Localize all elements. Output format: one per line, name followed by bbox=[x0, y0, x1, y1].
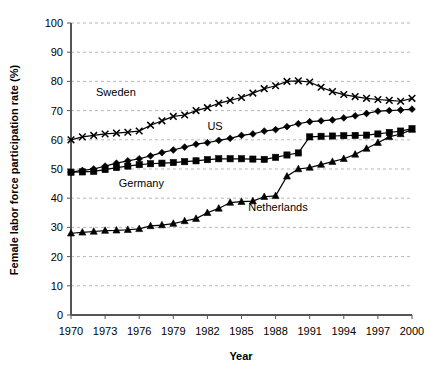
data-point-square bbox=[284, 152, 290, 158]
data-point-square bbox=[227, 156, 233, 162]
y-tick-label: 100 bbox=[45, 17, 63, 29]
line-chart-svg: 0102030405060708090100 19701973197619791… bbox=[0, 0, 440, 374]
data-point-square bbox=[375, 131, 381, 137]
chart-figure: 0102030405060708090100 19701973197619791… bbox=[0, 0, 440, 374]
data-point-square bbox=[102, 166, 108, 172]
x-tick-label: 1982 bbox=[195, 325, 219, 337]
y-tick-label: 10 bbox=[51, 280, 63, 292]
data-point-square bbox=[125, 163, 131, 169]
x-tick-label: 1979 bbox=[161, 325, 185, 337]
data-point-square bbox=[170, 159, 176, 165]
y-tick-label: 90 bbox=[51, 46, 63, 58]
data-point-square bbox=[238, 156, 244, 162]
y-tick-label: 70 bbox=[51, 105, 63, 117]
data-point-square bbox=[147, 161, 153, 167]
data-point-square bbox=[261, 156, 267, 162]
data-point-square bbox=[363, 132, 369, 138]
data-point-square bbox=[91, 168, 97, 174]
series-label-us: US bbox=[207, 120, 222, 132]
x-tick-label: 2000 bbox=[400, 325, 424, 337]
data-point-square bbox=[216, 156, 222, 162]
data-point-square bbox=[273, 154, 279, 160]
data-point-square bbox=[113, 164, 119, 170]
data-point-square bbox=[182, 159, 188, 165]
x-tick-label: 1976 bbox=[127, 325, 151, 337]
data-point-square bbox=[295, 150, 301, 156]
data-point-square bbox=[307, 134, 313, 140]
y-tick-label: 40 bbox=[51, 192, 63, 204]
data-point-square bbox=[204, 157, 210, 163]
x-tick-label: 1988 bbox=[263, 325, 287, 337]
y-tick-label: 60 bbox=[51, 134, 63, 146]
x-tick-label: 1991 bbox=[297, 325, 321, 337]
data-point-square bbox=[352, 132, 358, 138]
y-tick-label: 50 bbox=[51, 163, 63, 175]
x-tick-label: 1994 bbox=[332, 325, 356, 337]
y-tick-label: 0 bbox=[57, 309, 63, 321]
y-tick-label: 80 bbox=[51, 75, 63, 87]
data-point-square bbox=[250, 156, 256, 162]
y-tick-label: 20 bbox=[51, 251, 63, 263]
series-label-netherlands: Netherlands bbox=[248, 201, 308, 213]
y-axis-title: Female labor force participation rate (%… bbox=[8, 65, 20, 276]
data-point-square bbox=[136, 162, 142, 168]
data-point-square bbox=[159, 160, 165, 166]
x-tick-label: 1985 bbox=[229, 325, 253, 337]
data-point-square bbox=[193, 158, 199, 164]
data-point-square bbox=[329, 133, 335, 139]
x-tick-label: 1997 bbox=[366, 325, 390, 337]
data-point-square bbox=[79, 169, 85, 175]
series-label-sweden: Sweden bbox=[96, 86, 136, 98]
data-point-square bbox=[68, 169, 74, 175]
data-point-square bbox=[341, 133, 347, 139]
chart-background bbox=[0, 0, 440, 374]
x-tick-label: 1973 bbox=[93, 325, 117, 337]
x-axis-title: Year bbox=[229, 350, 253, 362]
data-point-square bbox=[318, 133, 324, 139]
y-tick-label: 30 bbox=[51, 221, 63, 233]
x-tick-label: 1970 bbox=[59, 325, 83, 337]
series-label-germany: Germany bbox=[119, 177, 165, 189]
